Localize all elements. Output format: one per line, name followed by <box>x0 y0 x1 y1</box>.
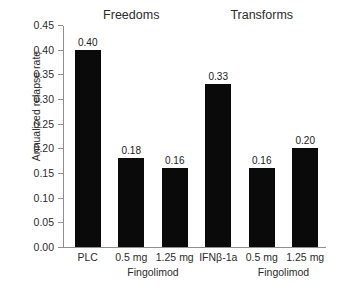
y-axis-line <box>63 26 64 248</box>
bar-value-label: 0.40 <box>78 37 97 48</box>
bar-value-label: 0.16 <box>165 155 184 166</box>
y-tick-mark <box>58 173 63 174</box>
bar-value-label: 0.33 <box>209 71 228 82</box>
y-tick-mark <box>58 198 63 199</box>
y-tick-label: 0.15 <box>0 167 54 179</box>
y-tick-label: 0.35 <box>0 68 54 80</box>
y-tick-label: 0.45 <box>0 19 54 31</box>
group-title-freedoms: Freedoms <box>76 8 186 22</box>
y-tick-label: 0.05 <box>0 216 54 228</box>
bar-value-label: 0.18 <box>122 145 141 156</box>
y-tick-label: 0.10 <box>0 192 54 204</box>
y-tick-mark <box>58 50 63 51</box>
y-tick-label: 0.30 <box>0 93 54 105</box>
y-tick-mark <box>58 222 63 223</box>
y-tick-label: 0.00 <box>0 241 54 253</box>
y-tick-mark <box>58 148 63 149</box>
x-axis-group-sublabel: Fingolimod <box>258 266 309 278</box>
bar <box>292 148 318 247</box>
bar <box>75 50 101 247</box>
x-tick-label: 0.5 mg <box>246 251 278 263</box>
x-tick-label: 0.5 mg <box>115 251 147 263</box>
x-tick-label: 1.25 mg <box>286 251 324 263</box>
x-tick-label: IFNβ-1a <box>199 251 237 263</box>
bar <box>118 158 144 247</box>
group-title-transforms: Transforms <box>207 8 317 22</box>
bar-chart: Freedoms Transforms Annualized relapse r… <box>0 0 340 291</box>
bar <box>249 168 275 247</box>
y-tick-mark <box>58 124 63 125</box>
bar-value-label: 0.20 <box>296 135 315 146</box>
bar <box>205 84 231 247</box>
bar-value-label: 0.16 <box>252 155 271 166</box>
y-tick-mark <box>58 25 63 26</box>
x-axis-line <box>63 247 326 248</box>
y-tick-label: 0.25 <box>0 118 54 130</box>
x-axis-group-sublabel: Fingolimod <box>127 266 178 278</box>
y-tick-mark <box>58 74 63 75</box>
bar <box>162 168 188 247</box>
x-tick-label: PLC <box>78 251 98 263</box>
y-tick-label: 0.40 <box>0 44 54 56</box>
y-tick-mark <box>58 247 63 248</box>
y-tick-mark <box>58 99 63 100</box>
x-tick-label: 1.25 mg <box>156 251 194 263</box>
y-tick-label: 0.20 <box>0 142 54 154</box>
